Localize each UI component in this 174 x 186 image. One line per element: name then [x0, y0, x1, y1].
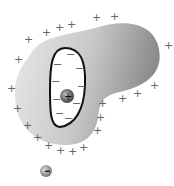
- svg-text:+: +: [110, 10, 119, 23]
- svg-text:+: +: [93, 124, 102, 137]
- conductor-diagram: − − − − − − − − − + + + + + + + + + + + …: [0, 0, 174, 186]
- svg-text:+: +: [55, 21, 64, 34]
- svg-text:+: +: [44, 139, 53, 152]
- svg-text:−: −: [77, 80, 86, 93]
- svg-text:+: +: [23, 119, 32, 132]
- svg-text:−: −: [51, 75, 60, 88]
- svg-text:−: −: [52, 93, 61, 106]
- svg-text:+: +: [67, 18, 76, 31]
- svg-text:+: +: [33, 131, 42, 144]
- svg-text:+: +: [98, 97, 107, 110]
- svg-text:+: +: [7, 82, 16, 95]
- inner-positive-charge: +: [60, 89, 74, 103]
- svg-text:+: +: [96, 111, 105, 124]
- svg-text:+: +: [14, 53, 23, 66]
- svg-text:−: −: [66, 48, 75, 61]
- svg-text:+: +: [64, 91, 72, 102]
- conductor-body: [15, 23, 160, 145]
- svg-text:+: +: [164, 39, 173, 52]
- svg-text:+: +: [92, 11, 101, 24]
- svg-text:+: +: [150, 79, 159, 92]
- svg-text:−: −: [72, 97, 81, 110]
- svg-text:−: −: [64, 112, 73, 125]
- svg-text:+: +: [68, 145, 77, 158]
- svg-text:+: +: [118, 92, 127, 105]
- external-negative-charge: [40, 165, 52, 177]
- svg-text:−: −: [75, 62, 84, 75]
- svg-text:−: −: [55, 107, 64, 120]
- svg-text:+: +: [24, 33, 33, 46]
- svg-text:−: −: [53, 58, 62, 71]
- svg-text:+: +: [133, 87, 142, 100]
- svg-text:+: +: [56, 144, 65, 157]
- svg-text:+: +: [13, 102, 22, 115]
- svg-text:+: +: [79, 141, 88, 154]
- svg-text:+: +: [42, 26, 51, 39]
